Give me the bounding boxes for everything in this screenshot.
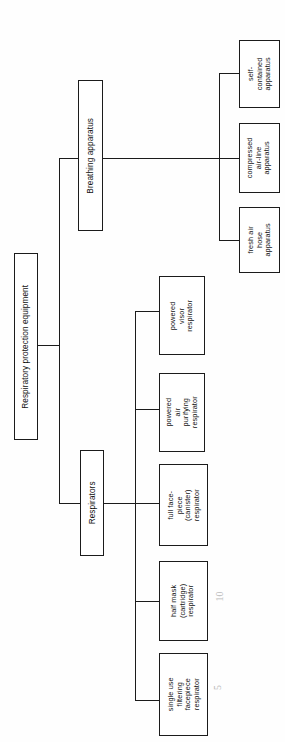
connector-root-stem — [38, 345, 60, 346]
annotation-mark-five: 5 — [212, 685, 223, 690]
node-label: full face- piece (canister) respirator — [166, 489, 200, 521]
node-single-use-filtering-facepiece-respirator[interactable]: single use filtering facepiece respirato… — [159, 653, 208, 736]
node-compressed-airline-apparatus[interactable]: compressed air-line apparatus — [239, 123, 280, 193]
connector-level1-trunk — [59, 158, 60, 504]
connector-breathing-stem — [103, 158, 220, 159]
node-powered-air-purifying-respirator[interactable]: powered air purifying respirator — [159, 373, 205, 452]
node-breathing-apparatus[interactable]: Breathing apparatus — [78, 80, 103, 231]
node-label: Breathing apparatus — [86, 118, 96, 194]
connector-breathing-children-trunk — [219, 73, 220, 240]
node-fresh-air-hose-apparatus[interactable]: fresh air hose apparatus — [239, 207, 280, 273]
diagram-canvas: Respiratory protection equipment Breathi… — [0, 0, 285, 742]
node-self-contained-apparatus[interactable]: self- contained apparatus — [239, 40, 280, 108]
node-half-mask-cartridge-respirator[interactable]: half mask (cartridge) respirator — [159, 561, 208, 641]
connector-to-full-facepiece — [135, 503, 159, 504]
connector-to-respirators — [59, 503, 81, 504]
node-label: compressed air-line apparatus — [247, 138, 273, 179]
node-label: Respiratory protection equipment — [21, 285, 31, 409]
connector-to-single-use — [135, 700, 159, 701]
node-label: half mask (cartridge) respirator — [171, 584, 197, 618]
node-label: single use filtering facepiece respirato… — [166, 678, 200, 712]
connector-to-fresh-air-hose — [219, 240, 239, 241]
connector-to-self-contained — [219, 73, 239, 74]
node-label: self- contained apparatus — [247, 57, 273, 90]
node-respirators[interactable]: Respirators — [80, 450, 104, 556]
node-powered-visor-respirator[interactable]: powered visor respirator — [159, 276, 205, 355]
node-label: powered air purifying respirator — [165, 397, 199, 429]
connector-to-breathing-apparatus — [59, 158, 79, 159]
node-label: fresh air hose apparatus — [247, 223, 273, 256]
connector-respirators-stem — [104, 503, 136, 504]
node-label: Respirators — [87, 482, 97, 525]
annotation-mark-ten: 10 — [214, 592, 225, 602]
connector-to-half-mask — [135, 601, 159, 602]
connector-respirator-children-trunk — [135, 311, 136, 700]
connector-to-powered-air-purifying — [135, 409, 159, 410]
connector-to-compressed-airline — [219, 158, 239, 159]
node-full-facepiece-canister-respirator[interactable]: full face- piece (canister) respirator — [159, 464, 208, 546]
node-root-respiratory-protection-equipment[interactable]: Respiratory protection equipment — [14, 253, 38, 440]
connector-to-powered-visor — [135, 311, 159, 312]
node-label: powered visor respirator — [169, 300, 195, 332]
